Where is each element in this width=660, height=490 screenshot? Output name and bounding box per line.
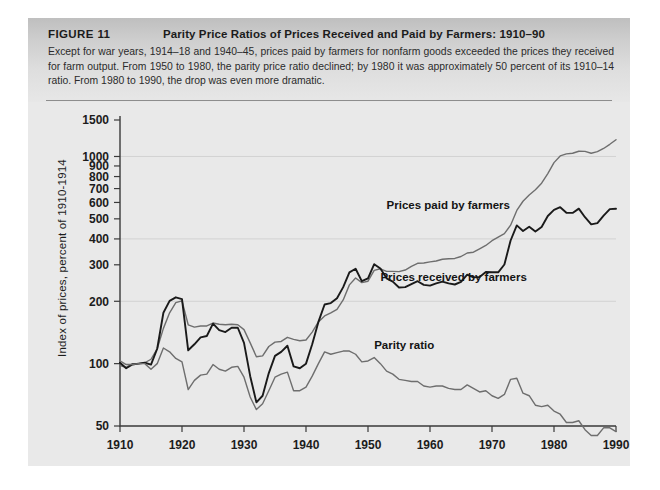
y-tick-label: 400 [89, 232, 109, 246]
y-tick-label: 50 [96, 419, 110, 433]
y-tick-label: 300 [89, 258, 109, 272]
header-divider [46, 100, 612, 101]
y-tick-label: 700 [89, 182, 109, 196]
line-chart: 1500100090080070060050040030020010050191… [28, 102, 630, 466]
x-tick-label: 1940 [293, 438, 320, 452]
series-line [120, 207, 616, 402]
figure-caption: Except for war years, 1914–18 and 1940–4… [48, 45, 614, 89]
y-tick-label: 600 [89, 196, 109, 210]
y-tick-label: 100 [89, 357, 109, 371]
series-line [120, 348, 616, 435]
x-tick-label: 1980 [541, 438, 568, 452]
series-annotation: Parity ratio [374, 339, 434, 351]
series-annotation: Prices paid by farmers [387, 199, 510, 211]
x-tick-label: 1960 [417, 438, 444, 452]
x-tick-label: 1950 [355, 438, 382, 452]
y-tick-label: 1500 [82, 113, 109, 127]
x-tick-label: 1970 [479, 438, 506, 452]
figure-title: Parity Price Ratios of Prices Received a… [163, 28, 613, 40]
x-tick-label: 1910 [107, 438, 134, 452]
x-tick-label: 1920 [169, 438, 196, 452]
x-tick-label: 1990 [603, 438, 630, 452]
figure-panel: FIGURE 11 Parity Price Ratios of Prices … [28, 18, 630, 466]
x-tick-label: 1930 [231, 438, 258, 452]
figure-label: FIGURE 11 [48, 28, 110, 40]
y-tick-label: 200 [89, 295, 109, 309]
y-tick-label: 500 [89, 212, 109, 226]
plot-area: Index of prices, percent of 1910-1914 15… [28, 102, 630, 466]
series-annotation: Prices received by farmers [380, 271, 526, 283]
series-line [120, 140, 616, 368]
